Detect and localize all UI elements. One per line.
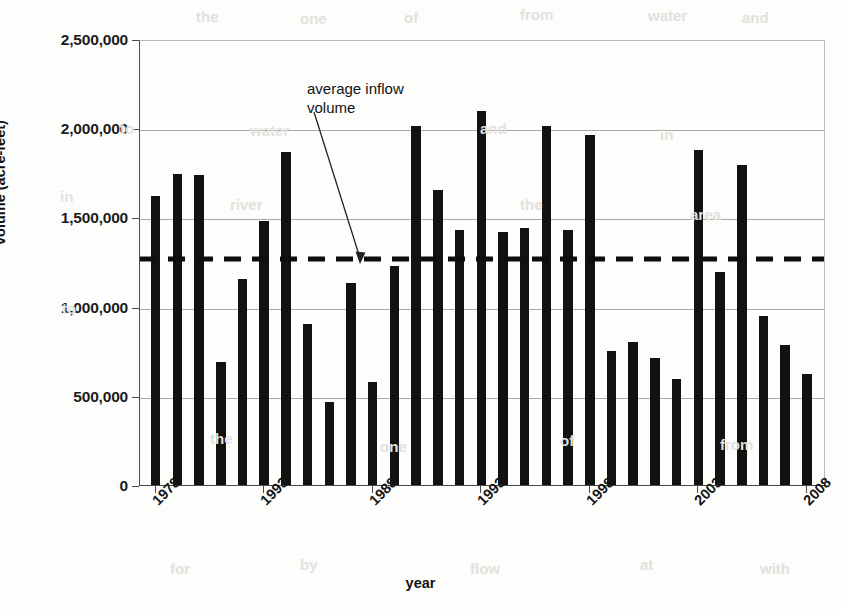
showthrough-word: the <box>210 430 233 447</box>
bar <box>151 196 161 485</box>
y-axis-tick-mark <box>132 218 139 219</box>
bar <box>759 316 769 485</box>
showthrough-word: water <box>648 7 687 24</box>
y-axis-tick-label: 500,000 <box>73 388 128 406</box>
bar <box>542 126 552 485</box>
showthrough-word: for <box>170 560 190 577</box>
bar <box>346 283 356 485</box>
average-inflow-annotation-label: average inflow volume <box>307 79 404 117</box>
bar <box>194 175 204 485</box>
bar <box>433 190 443 485</box>
showthrough-word: in <box>60 188 73 205</box>
y-axis-tick-label: 2,000,000 <box>61 120 128 138</box>
bar <box>281 152 291 485</box>
showthrough-word: of <box>404 9 418 26</box>
showthrough-word: one <box>300 10 327 27</box>
bar <box>477 111 487 485</box>
y-axis-tick-mark <box>132 486 139 487</box>
showthrough-word: the <box>520 196 543 213</box>
bar <box>650 358 660 485</box>
showthrough-word: to <box>62 300 76 317</box>
bar <box>455 230 465 485</box>
showthrough-word: from <box>520 6 553 23</box>
bar <box>173 174 183 485</box>
showthrough-word: and <box>742 9 769 26</box>
bar <box>672 379 682 485</box>
showthrough-word: to <box>120 120 134 137</box>
bar <box>585 135 595 485</box>
plot-area <box>139 40 825 486</box>
y-axis-tick-mark <box>132 308 139 309</box>
x-axis-title: year <box>0 575 841 591</box>
showthrough-word: one <box>380 438 407 455</box>
showthrough-word: of <box>560 432 574 449</box>
y-axis-tick-label: 1,500,000 <box>61 209 128 227</box>
bar <box>715 272 725 485</box>
showthrough-word: with <box>760 560 790 577</box>
showthrough-word: by <box>300 556 318 573</box>
bar <box>238 279 248 485</box>
y-axis-tick-mark <box>132 40 139 41</box>
bar <box>411 126 421 485</box>
showthrough-word: flow <box>470 560 500 577</box>
y-axis-tick-label: 2,500,000 <box>61 31 128 49</box>
showthrough-word: river <box>230 196 263 213</box>
showthrough-word: and <box>480 120 507 137</box>
showthrough-word: from <box>720 436 753 453</box>
showthrough-word: in <box>660 126 673 143</box>
bar <box>303 324 313 485</box>
bar <box>694 150 704 485</box>
bar <box>520 228 530 485</box>
bar <box>607 351 617 485</box>
y-axis-tick-label: 0 <box>120 477 128 495</box>
bar <box>216 362 226 485</box>
y-axis-title: volume (acre-feet) <box>0 120 8 245</box>
bar <box>325 402 335 485</box>
showthrough-word: at <box>640 556 653 573</box>
y-axis-tick-mark <box>132 397 139 398</box>
bar <box>802 374 812 485</box>
showthrough-word: area <box>690 206 721 223</box>
showthrough-word: the <box>196 8 219 25</box>
bar <box>368 382 378 485</box>
bar <box>780 345 790 485</box>
chart-page: volume (acre-feet) 2,500,0002,000,0001,5… <box>0 0 841 612</box>
showthrough-word: water <box>250 122 289 139</box>
average-inflow-line <box>140 256 824 261</box>
bar <box>498 232 508 485</box>
bar <box>628 342 638 485</box>
